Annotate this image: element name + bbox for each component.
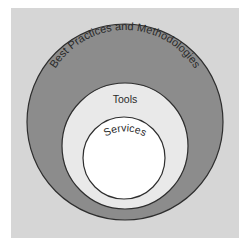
nested-circle-diagram: Best Practices and Methodologies Tools S… [0, 0, 249, 248]
middle-layer-label: Tools [113, 93, 138, 105]
